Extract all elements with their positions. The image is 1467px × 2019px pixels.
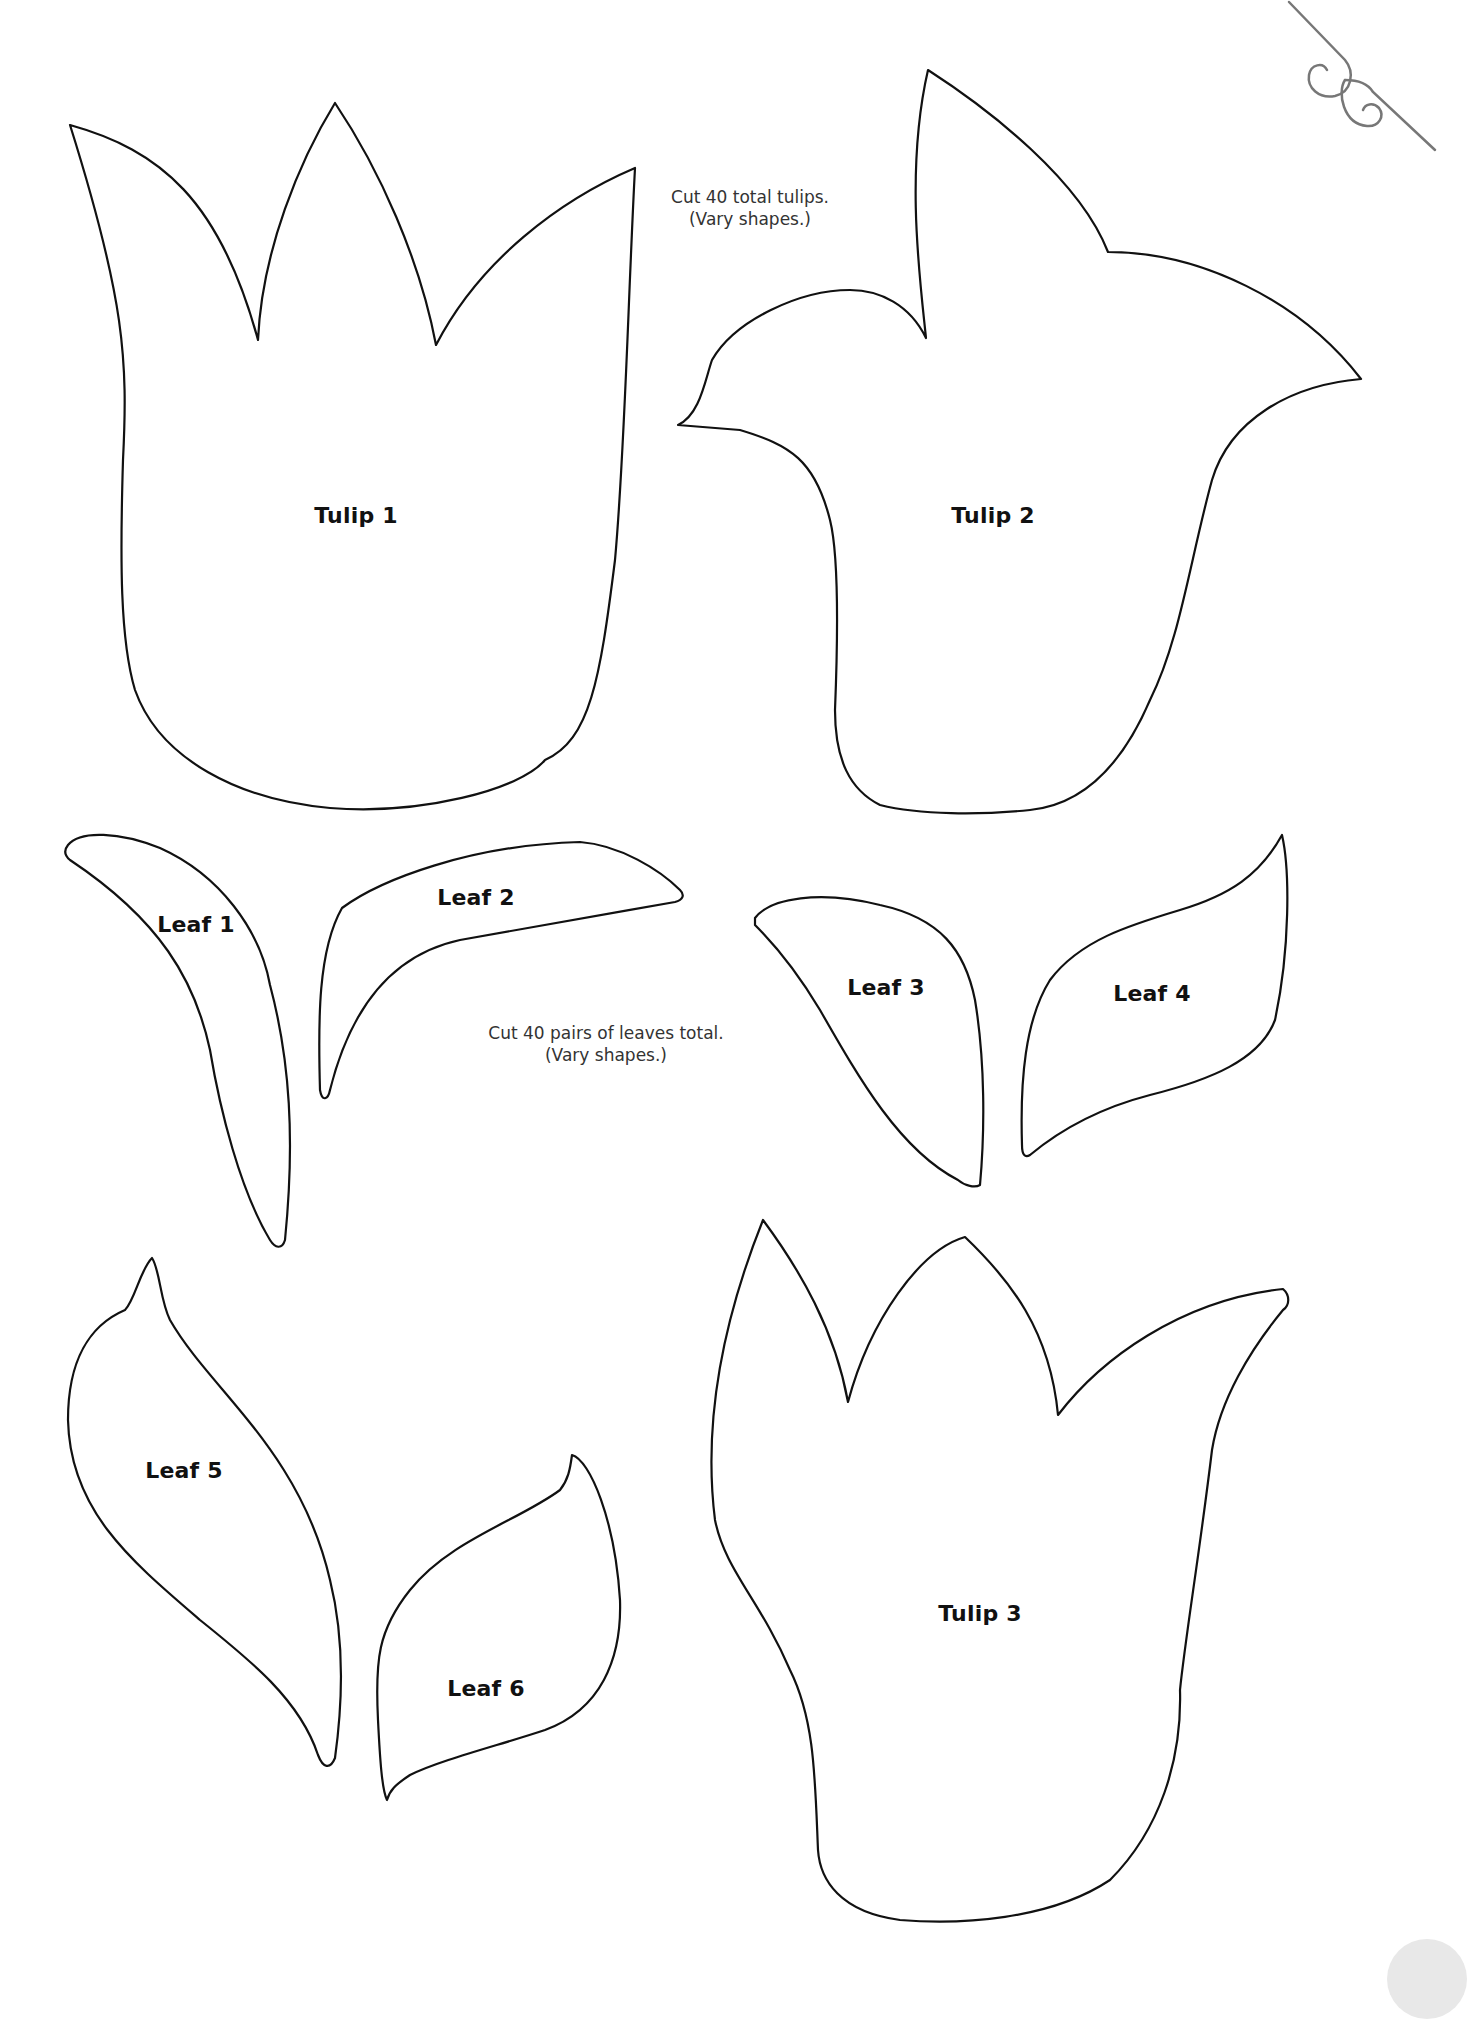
leaf-5-outline — [68, 1258, 341, 1766]
scroll-flourish-icon — [1267, 0, 1437, 160]
leaf-note-line2: (Vary shapes.) — [488, 1044, 723, 1066]
leaf-1-label: Leaf 1 — [157, 912, 235, 937]
page-number-circle — [1387, 1939, 1467, 2019]
leaf-1-outline — [65, 835, 290, 1247]
leaf-4-label: Leaf 4 — [1113, 981, 1191, 1006]
tulip-1-label: Tulip 1 — [314, 503, 397, 528]
tulip-1-outline — [70, 103, 635, 809]
tulip-cut-instructions: Cut 40 total tulips. (Vary shapes.) — [671, 186, 829, 230]
tulip-2-outline — [678, 70, 1361, 813]
leaf-3-label: Leaf 3 — [847, 975, 925, 1000]
leaf-note-line1: Cut 40 pairs of leaves total. — [488, 1022, 723, 1044]
leaf-2-label: Leaf 2 — [437, 885, 515, 910]
tulip-note-line1: Cut 40 total tulips. — [671, 186, 829, 208]
tulip-3-outline — [711, 1220, 1288, 1922]
leaf-5-label: Leaf 5 — [145, 1458, 223, 1483]
leaf-6-label: Leaf 6 — [447, 1676, 525, 1701]
tulip-2-label: Tulip 2 — [951, 503, 1034, 528]
tulip-3-label: Tulip 3 — [938, 1601, 1021, 1626]
leaf-cut-instructions: Cut 40 pairs of leaves total. (Vary shap… — [488, 1022, 723, 1066]
tulip-note-line2: (Vary shapes.) — [671, 208, 829, 230]
leaf-6-outline — [377, 1455, 620, 1800]
leaf-3-outline — [755, 897, 983, 1186]
